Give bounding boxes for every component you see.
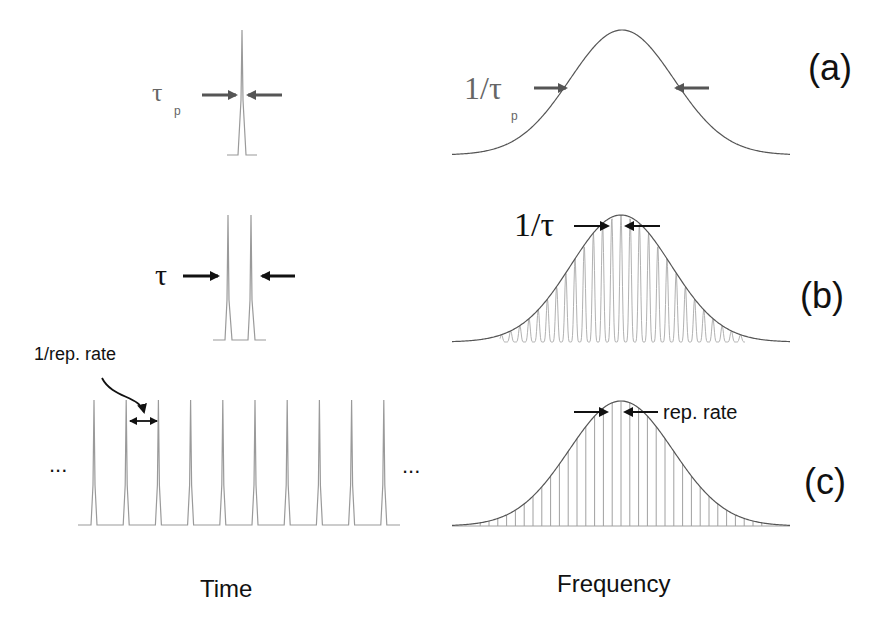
period-label: 1/rep. rate [34,344,116,364]
panel-label-a: (a) [808,47,852,88]
tau-p-label: τ [152,78,162,107]
time-domain-pulse-pair [213,215,266,340]
ellipsis-right: ... [402,453,420,478]
panel-label-c: (c) [804,461,846,502]
panel-a: τ p 1/τ p (a) [152,30,852,155]
ellipsis-left: ... [49,452,67,477]
time-domain-single-pulse [227,30,257,155]
inverse-tau-p-label: 1/τ [464,70,502,106]
tau-label: τ [155,258,167,291]
frequency-domain-gaussian [452,30,790,154]
inverse-tau-label: 1/τ [514,206,554,243]
time-domain-pulse-train [78,400,400,525]
panel-label-b: (b) [800,275,844,316]
frequency-domain-fringes [452,215,790,342]
curved-pointer-arrow-icon [102,378,144,412]
frequency-comb [452,401,790,526]
pulse-spectrum-diagram: τ p 1/τ p (a) τ 1/τ (b) 1/rep [0,0,876,639]
rep-rate-label: rep. rate [663,401,737,423]
time-axis-label: Time [200,575,252,602]
inverse-tau-p-subscript: p [511,109,518,123]
panel-b: τ 1/τ (b) [155,206,844,342]
tau-p-subscript: p [174,104,181,118]
frequency-axis-label: Frequency [557,570,670,597]
panel-c: 1/rep. rate ... ... rep. rate (c) [34,344,846,526]
